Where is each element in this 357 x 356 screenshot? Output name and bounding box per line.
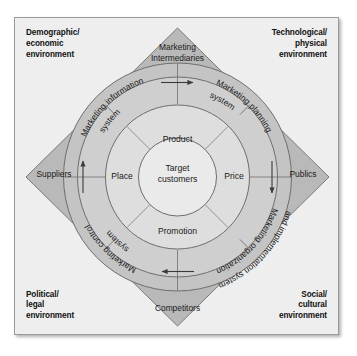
marketing-mix-label-product: Product: [15, 134, 340, 145]
diagram-stage: Marketing information system Marketing p…: [15, 18, 340, 336]
actor-label-marketing-intermediaries: Marketing Intermediaries: [15, 42, 340, 64]
actor-label-competitors: Competitors: [15, 303, 340, 314]
marketing-mix-label-promotion: Promotion: [15, 226, 340, 237]
marketing-environment-figure: Demographic/ economic environment Techno…: [0, 0, 357, 356]
figure-panel: Demographic/ economic environment Techno…: [14, 17, 339, 335]
core-label-target-customers: Target customers: [15, 163, 340, 185]
